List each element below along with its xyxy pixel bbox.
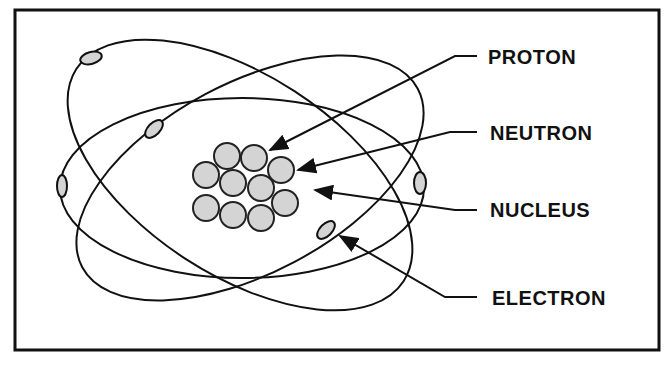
nucleon	[241, 145, 267, 171]
electron	[414, 172, 426, 194]
label-nucleus: NUCLEUS	[490, 200, 590, 220]
electron	[79, 49, 103, 66]
electron	[57, 175, 67, 197]
nucleon	[248, 205, 274, 231]
electron	[142, 117, 166, 141]
nucleon	[220, 170, 246, 196]
label-proton: PROTON	[488, 47, 576, 67]
nucleon	[220, 202, 246, 228]
nucleon	[248, 175, 274, 201]
neutron-pointer	[298, 132, 477, 170]
nucleon	[268, 157, 294, 183]
nucleon	[214, 143, 240, 169]
nucleon	[193, 195, 219, 221]
nucleon	[193, 162, 219, 188]
nucleus	[193, 143, 298, 231]
electron-pointer	[340, 236, 477, 297]
label-neutron: NEUTRON	[490, 123, 592, 143]
label-electron: ELECTRON	[492, 288, 606, 308]
nucleon	[272, 190, 298, 216]
